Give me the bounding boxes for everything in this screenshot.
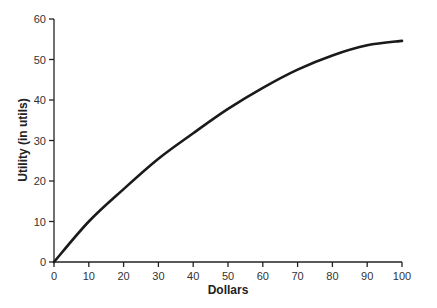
- utility-chart: 0102030405060 0102030405060708090100 Dol…: [0, 0, 437, 308]
- y-axis-title: Utility (in utils): [16, 98, 30, 181]
- x-tick-label: 10: [83, 270, 95, 282]
- y-tick-label: 40: [34, 94, 46, 106]
- y-tick-label: 10: [34, 216, 46, 228]
- x-tick-label: 100: [393, 270, 411, 282]
- x-tick-label: 70: [291, 270, 303, 282]
- x-tick-label: 90: [361, 270, 373, 282]
- y-tick-label: 60: [34, 13, 46, 25]
- y-tick-label: 0: [40, 256, 46, 268]
- y-tick-label: 30: [34, 135, 46, 147]
- x-axis-title: Dollars: [208, 283, 249, 297]
- y-tick-label: 20: [34, 175, 46, 187]
- x-tick-label: 80: [326, 270, 338, 282]
- x-axis-ticks: 0102030405060708090100: [51, 262, 411, 282]
- x-tick-label: 0: [51, 270, 57, 282]
- y-tick-label: 50: [34, 54, 46, 66]
- x-tick-label: 40: [187, 270, 199, 282]
- x-tick-label: 20: [117, 270, 129, 282]
- y-axis-ticks: 0102030405060: [34, 13, 54, 268]
- x-tick-label: 30: [152, 270, 164, 282]
- utility-curve: [54, 41, 402, 262]
- x-tick-label: 50: [222, 270, 234, 282]
- x-tick-label: 60: [257, 270, 269, 282]
